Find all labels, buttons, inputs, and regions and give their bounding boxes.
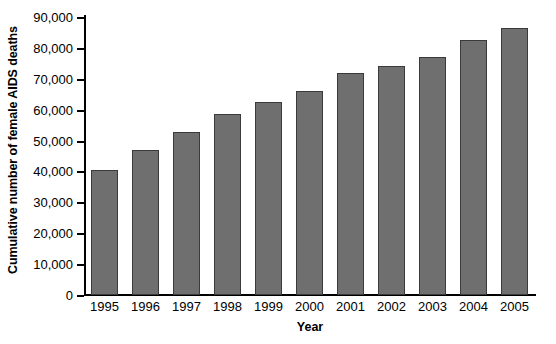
bar bbox=[255, 102, 282, 295]
y-tick-mark bbox=[77, 264, 84, 266]
x-tick-label: 2001 bbox=[336, 300, 365, 313]
bar bbox=[419, 57, 446, 295]
bar bbox=[173, 132, 200, 295]
x-tick-label: 1997 bbox=[172, 300, 201, 313]
bar bbox=[91, 170, 118, 295]
bar bbox=[378, 66, 405, 296]
y-tick-label: 10,000 bbox=[33, 258, 73, 271]
y-tick-label: 50,000 bbox=[33, 134, 73, 147]
x-tick-label: 1996 bbox=[131, 300, 160, 313]
x-tick-label: 2004 bbox=[459, 300, 488, 313]
x-tick-label: 1999 bbox=[254, 300, 283, 313]
y-tick-mark bbox=[77, 202, 84, 204]
plot-area: 010,00020,00030,00040,00050,00060,00070,… bbox=[84, 17, 535, 295]
x-tick-label: 2000 bbox=[295, 300, 324, 313]
x-axis-title: Year bbox=[84, 320, 536, 334]
y-tick-mark bbox=[77, 79, 84, 81]
x-tick-label: 1995 bbox=[90, 300, 119, 313]
y-tick-mark bbox=[77, 48, 84, 50]
y-tick-label: 30,000 bbox=[33, 196, 73, 209]
y-tick-label: 60,000 bbox=[33, 103, 73, 116]
y-tick-label: 70,000 bbox=[33, 72, 73, 85]
y-tick-mark bbox=[77, 233, 84, 235]
y-tick-label: 20,000 bbox=[33, 227, 73, 240]
bar bbox=[296, 91, 323, 295]
bar bbox=[132, 150, 159, 295]
bar bbox=[460, 40, 487, 295]
y-tick-mark bbox=[77, 141, 84, 143]
y-tick-label: 40,000 bbox=[33, 165, 73, 178]
x-tick-label: 2005 bbox=[500, 300, 529, 313]
y-tick-mark bbox=[77, 17, 84, 19]
caption-sliver bbox=[0, 338, 556, 344]
y-tick-label: 80,000 bbox=[33, 41, 73, 54]
y-tick-mark bbox=[77, 171, 84, 173]
x-tick-label: 2002 bbox=[377, 300, 406, 313]
y-tick-label: 0 bbox=[66, 289, 73, 302]
y-tick-mark bbox=[77, 295, 84, 297]
x-tick-label: 1998 bbox=[213, 300, 242, 313]
y-tick-label: 90,000 bbox=[33, 11, 73, 24]
bar bbox=[337, 73, 364, 295]
x-tick-label: 2003 bbox=[418, 300, 447, 313]
bar-chart-figure: Cumulative number of female AIDS deaths … bbox=[0, 0, 556, 344]
y-axis-title: Cumulative number of female AIDS deaths bbox=[2, 0, 24, 300]
bar bbox=[501, 28, 528, 295]
y-tick-mark bbox=[77, 110, 84, 112]
bar bbox=[214, 114, 241, 295]
